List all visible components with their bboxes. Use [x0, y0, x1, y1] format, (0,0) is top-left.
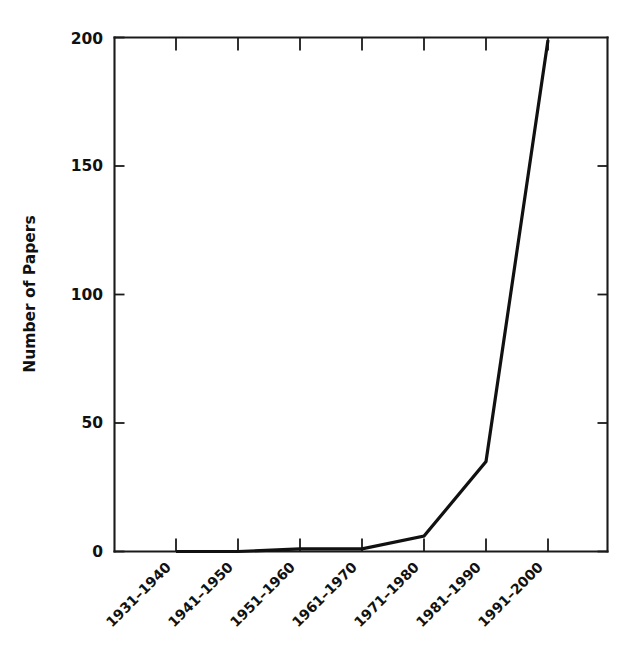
y-tick-label-0: 0	[92, 543, 103, 561]
y-tick-label-200: 200	[71, 30, 104, 48]
chart-figure: 0 50 100 150 200	[0, 0, 625, 655]
line-chart: 0 50 100 150 200	[0, 0, 625, 655]
y-axis-title: Number of Papers	[21, 215, 39, 372]
y-tick-label-150: 150	[71, 157, 104, 175]
y-tick-label-100: 100	[71, 286, 104, 304]
y-tick-label-50: 50	[81, 414, 103, 432]
